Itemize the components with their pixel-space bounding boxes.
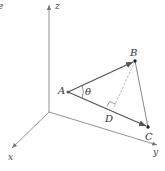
vector-AB — [68, 62, 133, 92]
y-axis-label: y — [152, 147, 159, 157]
angle-arc — [82, 86, 83, 99]
coordinate-axes: z x y — [8, 1, 159, 162]
point-C — [146, 125, 149, 128]
point-A — [67, 91, 70, 94]
angle-theta-label: θ — [85, 86, 91, 97]
segment-BC — [135, 61, 148, 127]
x-axis — [12, 112, 49, 148]
vector-projection-diagram: e z x y θ A B C D — [0, 0, 165, 171]
x-axis-label: x — [8, 152, 13, 162]
point-D-label: D — [104, 113, 113, 124]
point-C-label: C — [145, 131, 153, 142]
perpendicular-BD — [113, 61, 135, 109]
point-B-label: B — [129, 47, 137, 58]
corner-text-fragment: e — [0, 1, 3, 11]
point-A-label: A — [57, 85, 65, 96]
y-axis — [49, 112, 157, 145]
z-axis-label: z — [54, 1, 60, 11]
point-B — [133, 59, 136, 62]
